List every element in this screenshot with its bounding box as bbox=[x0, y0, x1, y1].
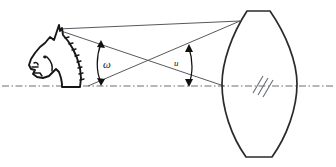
optics-ray-diagram: ω u bbox=[0, 0, 336, 167]
ray-from-object-top-upper bbox=[58, 21, 240, 29]
u-arrow-head-top bbox=[185, 44, 193, 52]
biconvex-lens bbox=[222, 11, 297, 157]
field-angle-label: ω bbox=[103, 58, 111, 70]
aperture-angle-label: u bbox=[174, 58, 179, 68]
aperture-angle-u-marker bbox=[185, 44, 193, 87]
omega-arc bbox=[97, 43, 101, 82]
horse-head-silhouette bbox=[29, 25, 81, 87]
glass-hatching-symbol bbox=[253, 76, 273, 97]
horse-head-object bbox=[29, 25, 84, 87]
u-arc bbox=[189, 48, 192, 83]
horse-eye bbox=[43, 56, 47, 59]
diagram-canvas: ω u bbox=[0, 0, 336, 167]
ray-from-object-base bbox=[88, 21, 240, 86]
